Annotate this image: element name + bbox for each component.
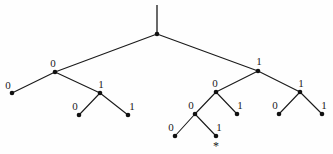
tree-edge bbox=[175, 114, 195, 136]
tree-node-label: 0 bbox=[50, 58, 56, 69]
tree-internal-node bbox=[214, 90, 219, 95]
tree-internal-node bbox=[155, 32, 160, 37]
binary-tree-figure: 01010101010101 * bbox=[0, 0, 333, 154]
tree-edge bbox=[100, 93, 128, 115]
tree-internal-node bbox=[53, 70, 58, 75]
tree-node-label: 0 bbox=[188, 100, 194, 111]
tree-node-label: 0 bbox=[5, 80, 11, 91]
tree-internal-node bbox=[256, 69, 261, 74]
tree-edge bbox=[55, 72, 100, 93]
tree-edge bbox=[279, 92, 300, 114]
tree-edges-group bbox=[12, 34, 322, 136]
tree-edge bbox=[216, 92, 237, 114]
tree-leaf-node bbox=[235, 112, 240, 117]
tree-node-label: 1 bbox=[98, 79, 104, 90]
asterisk-marker: * bbox=[213, 140, 219, 152]
tree-internal-node bbox=[193, 112, 198, 117]
tree-nodes-group bbox=[10, 32, 325, 139]
tree-internal-node bbox=[298, 90, 303, 95]
tree-node-label: 1 bbox=[216, 122, 222, 133]
tree-leaf-node bbox=[77, 113, 82, 118]
tree-leaf-node bbox=[10, 91, 15, 96]
tree-internal-node bbox=[98, 91, 103, 96]
tree-node-label: 0 bbox=[212, 78, 218, 89]
tree-edge bbox=[79, 93, 100, 115]
tree-svg-canvas bbox=[0, 0, 333, 154]
tree-node-label: 1 bbox=[256, 56, 262, 67]
tree-leaf-node bbox=[126, 113, 131, 118]
tree-node-label: 1 bbox=[237, 100, 243, 111]
tree-node-label: 1 bbox=[129, 101, 135, 112]
tree-node-label: 0 bbox=[72, 101, 78, 112]
tree-node-label: 1 bbox=[298, 78, 304, 89]
tree-edge bbox=[195, 92, 216, 114]
tree-edge bbox=[12, 72, 55, 93]
tree-edge bbox=[300, 92, 322, 114]
tree-edge bbox=[157, 34, 258, 71]
tree-leaf-node bbox=[277, 112, 282, 117]
tree-leaf-node bbox=[173, 134, 178, 139]
tree-edge bbox=[216, 71, 258, 92]
tree-node-label: 0 bbox=[272, 100, 278, 111]
tree-leaf-node bbox=[320, 112, 325, 117]
tree-edge bbox=[195, 114, 216, 136]
tree-node-label: 0 bbox=[168, 122, 174, 133]
tree-edge bbox=[55, 34, 157, 72]
tree-node-label: 1 bbox=[321, 100, 327, 111]
tree-edge bbox=[258, 71, 300, 92]
tree-leaf-node bbox=[214, 134, 219, 139]
